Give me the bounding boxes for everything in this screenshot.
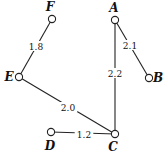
node-label-d: D <box>44 139 56 153</box>
edge-weights: 1.82.12.22.01.2 <box>27 40 140 140</box>
node-d-circle-icon <box>47 128 54 135</box>
node-label-a: A <box>108 1 118 15</box>
node-label-b: B <box>152 71 163 85</box>
node-c-circle-icon <box>111 130 118 137</box>
node-b-circle-icon <box>145 74 152 81</box>
node-label-c: C <box>108 140 118 154</box>
edge-weight-label: 1.2 <box>77 130 91 140</box>
nodes <box>15 15 152 137</box>
node-label-e: E <box>3 70 14 84</box>
edge-weight-label: 1.8 <box>29 42 44 52</box>
edges <box>19 19 149 134</box>
edge-weight-label: 2.1 <box>123 41 137 51</box>
graph-diagram: 1.82.12.22.01.2 FABEDC <box>0 0 163 156</box>
edge-weight-label: 2.2 <box>108 69 122 79</box>
node-label-f: F <box>45 0 56 14</box>
node-f-circle-icon <box>48 15 55 22</box>
edge-weight-label: 2.0 <box>61 103 76 113</box>
node-e-circle-icon <box>15 73 22 80</box>
node-a-circle-icon <box>111 16 118 23</box>
